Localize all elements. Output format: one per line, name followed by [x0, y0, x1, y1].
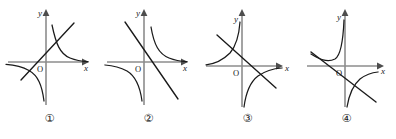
figure-panel-2: x y O ② — [99, 0, 198, 139]
hyperbola-branch-q2 — [311, 20, 344, 61]
hyperbola-branch-q2 — [206, 22, 240, 65]
straight-line — [217, 35, 276, 88]
straight-line — [125, 22, 178, 99]
panel-4-plot: x y O — [297, 0, 396, 120]
y-axis-arrowhead — [239, 9, 246, 16]
figure-root: x y O ① x y O ② — [0, 0, 396, 139]
x-axis-label: x — [83, 63, 88, 73]
x-axis-label: x — [182, 63, 187, 73]
panel-3-caption: ③ — [198, 112, 297, 125]
straight-line — [311, 52, 376, 102]
hyperbola-branch-q4 — [347, 72, 378, 107]
y-axis-label: y — [135, 8, 140, 18]
y-axis-arrowhead — [342, 9, 349, 16]
hyperbola-branch-q1 — [151, 27, 187, 62]
panel-3-plot: x y O — [198, 0, 297, 120]
origin-label: O — [336, 68, 342, 78]
y-axis-arrowhead — [141, 9, 148, 16]
y-axis-label: y — [37, 8, 42, 18]
origin-label: O — [37, 64, 43, 74]
x-axis-label: x — [284, 63, 289, 73]
y-axis-label: y — [233, 14, 238, 24]
straight-line — [21, 23, 74, 80]
panel-4-caption: ④ — [297, 112, 396, 125]
origin-label: O — [135, 64, 141, 74]
figure-panel-4: x y O ④ — [297, 0, 396, 139]
hyperbola-branch-q1 — [52, 25, 88, 62]
panel-2-caption: ② — [99, 112, 198, 125]
panel-1-caption: ① — [0, 112, 99, 125]
panel-2-plot: x y O — [99, 0, 198, 120]
x-axis-label: x — [380, 66, 385, 76]
figure-panel-3: x y O ③ — [198, 0, 297, 139]
figure-panel-1: x y O ① — [0, 0, 99, 139]
y-axis-label: y — [336, 12, 341, 22]
origin-label: O — [233, 68, 239, 78]
y-axis-arrowhead — [43, 9, 50, 16]
panel-1-plot: x y O — [0, 0, 99, 120]
